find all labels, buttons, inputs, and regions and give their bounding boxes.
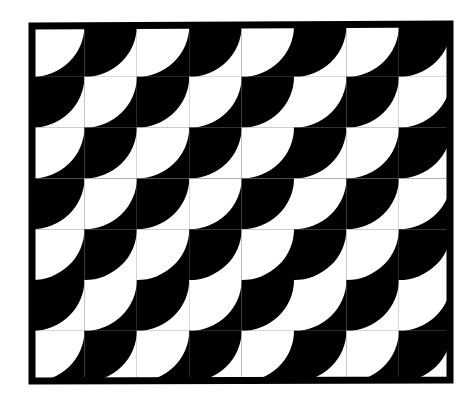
pattern-cell: [84, 128, 137, 179]
pattern-cell: [32, 178, 85, 229]
pattern-cell: [346, 331, 399, 382]
pattern-cell: [242, 77, 295, 128]
pattern-cell: [32, 229, 85, 280]
pattern-cell: [294, 280, 347, 331]
pattern-cell: [294, 128, 347, 179]
pattern-cell: [84, 178, 137, 229]
pattern-cell: [242, 128, 295, 179]
pattern-cell: [399, 178, 452, 229]
pattern-cell: [346, 280, 399, 331]
artboard: [0, 0, 476, 404]
pattern-cell: [242, 331, 295, 382]
pattern-cell: [84, 229, 137, 280]
pattern-cell: [32, 26, 85, 77]
pattern-cell: [399, 280, 452, 331]
pattern-cell: [137, 280, 190, 331]
pattern-cell: [399, 331, 452, 382]
pattern-field: [32, 26, 452, 382]
pattern-cell: [32, 128, 85, 179]
quarter-circle-pattern-artwork: [0, 0, 476, 404]
pattern-cell: [84, 77, 137, 128]
pattern-cell: [294, 77, 347, 128]
pattern-cell: [242, 229, 295, 280]
pattern-cell: [137, 331, 190, 382]
pattern-cell: [189, 178, 242, 229]
pattern-cell: [137, 26, 190, 77]
pattern-cell: [189, 77, 242, 128]
pattern-cell: [399, 26, 452, 77]
pattern-cell: [84, 280, 137, 331]
pattern-cell: [399, 128, 452, 179]
pattern-cell: [137, 128, 190, 179]
pattern-cell: [84, 331, 137, 382]
pattern-cell: [346, 178, 399, 229]
pattern-cell: [294, 26, 347, 77]
pattern-cell: [189, 229, 242, 280]
pattern-cell: [346, 77, 399, 128]
pattern-cell: [189, 26, 242, 77]
pattern-cell: [32, 77, 85, 128]
pattern-cell: [294, 229, 347, 280]
pattern-cell: [84, 26, 137, 77]
pattern-cell: [189, 128, 242, 179]
pattern-cell: [32, 331, 85, 382]
pattern-cell: [242, 26, 295, 77]
pattern-cell: [137, 178, 190, 229]
pattern-cell: [346, 229, 399, 280]
pattern-cell: [346, 128, 399, 179]
pattern-cell: [346, 26, 399, 77]
pattern-cell: [242, 178, 295, 229]
pattern-cell: [137, 77, 190, 128]
pattern-cell: [189, 331, 242, 382]
pattern-cell: [137, 229, 190, 280]
pattern-cell: [242, 280, 295, 331]
pattern-cell: [294, 178, 347, 229]
pattern-cell: [32, 280, 85, 331]
pattern-cell: [399, 77, 452, 128]
pattern-cell: [189, 280, 242, 331]
pattern-cell: [399, 229, 452, 280]
pattern-cell: [294, 331, 347, 382]
